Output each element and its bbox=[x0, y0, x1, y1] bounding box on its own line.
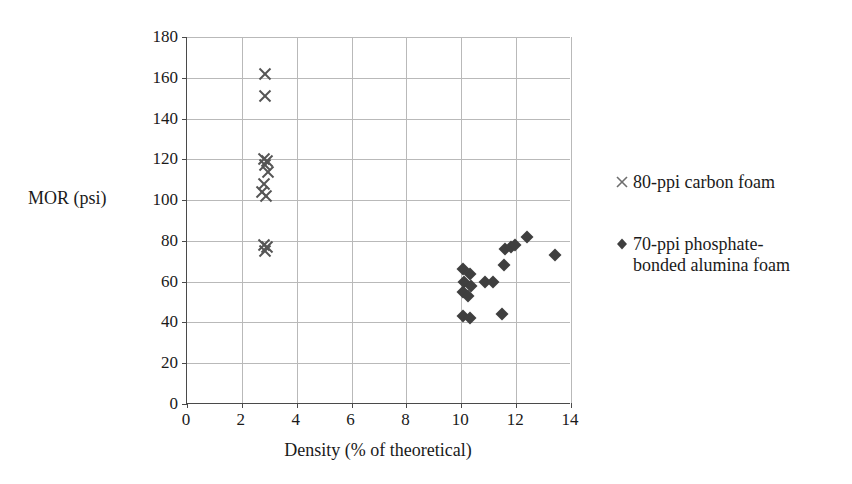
gridline-vertical bbox=[516, 37, 517, 403]
y-axis-tick bbox=[182, 363, 187, 364]
y-axis-tick-label: 140 bbox=[153, 110, 179, 127]
legend-entry-alumina-foam: 70-ppi phosphate- bonded alumina foam bbox=[614, 234, 790, 276]
x-axis-tick bbox=[187, 403, 188, 408]
scatter-chart-figure: 020406080100120140160180 MOR (psi) 02468… bbox=[0, 0, 852, 484]
y-axis-tick bbox=[182, 241, 187, 242]
x-axis-tick bbox=[571, 403, 572, 408]
legend-entry-carbon-foam: 80-ppi carbon foam bbox=[614, 172, 775, 193]
data-point-diamond bbox=[455, 262, 470, 277]
x-axis-tick-label: 14 bbox=[562, 411, 579, 428]
data-point-cross bbox=[258, 66, 273, 81]
y-axis-tick bbox=[182, 159, 187, 160]
x-axis-tick-label: 4 bbox=[291, 411, 300, 428]
y-axis-tick-label: 0 bbox=[170, 395, 179, 412]
gridline-vertical bbox=[461, 37, 462, 403]
data-point-cross bbox=[255, 184, 270, 199]
gridline-vertical bbox=[297, 37, 298, 403]
plot-area bbox=[186, 37, 570, 404]
data-point-cross bbox=[260, 154, 275, 169]
y-axis-tick-label: 80 bbox=[161, 232, 178, 249]
y-axis-tick-label: 60 bbox=[161, 273, 178, 290]
x-axis-tick bbox=[516, 403, 517, 408]
data-point-diamond bbox=[463, 278, 478, 293]
y-axis-tick bbox=[182, 322, 187, 323]
gridline-horizontal bbox=[187, 200, 570, 201]
data-point-cross bbox=[257, 244, 272, 259]
data-point-cross bbox=[256, 176, 271, 191]
data-point-diamond bbox=[461, 288, 476, 303]
cross-marker-icon bbox=[614, 172, 633, 192]
y-axis-tick-label: 100 bbox=[153, 191, 179, 208]
gridline-vertical bbox=[406, 37, 407, 403]
y-axis-tick-label: 120 bbox=[153, 150, 179, 167]
x-axis-tick bbox=[242, 403, 243, 408]
legend-label-carbon-foam: 80-ppi carbon foam bbox=[633, 172, 775, 193]
y-axis-tick-label: 160 bbox=[153, 69, 179, 86]
data-point-diamond bbox=[462, 311, 477, 326]
gridline-horizontal bbox=[187, 78, 570, 79]
y-axis-tick-label: 20 bbox=[161, 354, 178, 371]
x-axis-tick-label: 8 bbox=[401, 411, 410, 428]
x-axis-tick bbox=[461, 403, 462, 408]
gridline-horizontal bbox=[187, 322, 570, 323]
x-axis-title: Density (% of theoretical) bbox=[186, 440, 570, 460]
y-axis-tick-label: 40 bbox=[161, 313, 178, 330]
gridline-vertical bbox=[242, 37, 243, 403]
gridline-horizontal bbox=[187, 159, 570, 160]
y-axis-tick bbox=[182, 78, 187, 79]
y-axis-tick bbox=[182, 119, 187, 120]
gridline-horizontal bbox=[187, 119, 570, 120]
data-point-cross bbox=[256, 237, 271, 252]
x-axis-tick-label: 10 bbox=[452, 411, 469, 428]
data-point-diamond bbox=[520, 229, 535, 244]
data-point-diamond bbox=[495, 307, 510, 322]
data-point-diamond bbox=[455, 284, 470, 299]
y-axis-tick bbox=[182, 37, 187, 38]
y-axis-tick-labels: 020406080100120140160180 bbox=[120, 37, 178, 404]
x-axis-tick-label: 6 bbox=[346, 411, 355, 428]
gridline-horizontal bbox=[187, 363, 570, 364]
data-point-cross bbox=[260, 164, 275, 179]
data-point-diamond bbox=[547, 248, 562, 263]
y-axis-tick bbox=[182, 200, 187, 201]
data-point-diamond bbox=[507, 237, 522, 252]
gridline-vertical bbox=[352, 37, 353, 403]
gridline-horizontal bbox=[187, 37, 570, 38]
x-axis-tick-label: 0 bbox=[182, 411, 191, 428]
x-axis-tick bbox=[297, 403, 298, 408]
x-axis-tick bbox=[352, 403, 353, 408]
diamond-marker-icon bbox=[614, 234, 633, 254]
gridline-horizontal bbox=[187, 241, 570, 242]
y-axis-tick-label: 180 bbox=[153, 28, 179, 45]
data-point-cross bbox=[258, 189, 273, 204]
legend-label-alumina-foam: 70-ppi phosphate- bonded alumina foam bbox=[633, 234, 790, 276]
gridline-horizontal bbox=[187, 282, 570, 283]
x-axis-tick-labels: 02468101214 bbox=[186, 411, 570, 433]
x-axis-tick bbox=[406, 403, 407, 408]
data-point-diamond bbox=[496, 258, 511, 273]
y-axis-tick bbox=[182, 282, 187, 283]
data-point-cross bbox=[258, 89, 273, 104]
gridline-vertical bbox=[571, 37, 572, 403]
data-point-diamond bbox=[498, 242, 513, 257]
x-axis-tick-label: 2 bbox=[237, 411, 246, 428]
data-point-diamond bbox=[462, 266, 477, 281]
x-axis-tick-label: 12 bbox=[507, 411, 524, 428]
y-axis-title: MOR (psi) bbox=[28, 188, 107, 208]
